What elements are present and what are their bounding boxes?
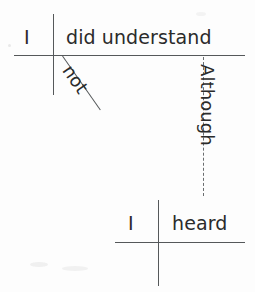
main-clause-subject: I	[24, 28, 30, 47]
subordinate-clause-predicate: heard	[172, 214, 227, 233]
scan-grain	[30, 262, 48, 267]
scan-grain	[62, 266, 88, 271]
subordinate-clause-subject-predicate-divider	[158, 200, 159, 286]
scan-grain	[196, 12, 206, 16]
scan-grain	[8, 44, 11, 47]
subordinating-conjunction: Although	[198, 64, 216, 146]
main-clause-predicate: did understand	[66, 28, 212, 47]
subordinate-clause-subject: I	[128, 214, 134, 233]
sentence-diagram: I did understand not Although I heard	[0, 0, 255, 292]
main-clause-subject-predicate-divider	[53, 14, 54, 95]
main-clause-baseline	[14, 55, 245, 56]
subordinate-clause-baseline	[115, 242, 245, 243]
